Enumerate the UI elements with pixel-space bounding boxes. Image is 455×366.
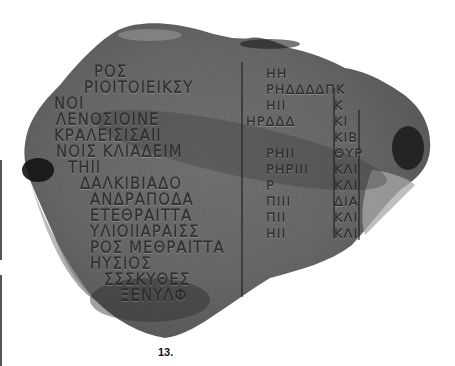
inscription-line: ΥΛΙΟΙΙΑΡΑΙΣΣ bbox=[90, 224, 225, 240]
inscription-left-column: ΡΟΣ ΡΙΟΙΤΟΙΕΙΚΣΥ ΝΟΙ ΛΕΝΟΣΙΟΙΝΕ ΚΡΑΛΕΙΣΙ… bbox=[54, 64, 225, 304]
right-line: ΔΙΑ bbox=[334, 194, 363, 210]
inscription-line: ΤΗΙΙ bbox=[68, 160, 225, 176]
ruling-line-1 bbox=[241, 62, 243, 297]
shadow-patch-right bbox=[392, 126, 424, 170]
numeral-line: ΗΡΔΔΔ bbox=[246, 114, 346, 130]
inscription-line: ΞΕΝΥΛΦ bbox=[120, 288, 225, 304]
inscription-line: ΗΥΣΙΟΣ bbox=[90, 256, 225, 272]
inscription-line: ΡΙΟΙΤΟΙΕΙΚΣΥ bbox=[84, 80, 225, 96]
inscription-line: ΝΟΙ bbox=[54, 96, 225, 112]
inscription-line: ΔΑΛΚΙΒΙΑΔΟ bbox=[80, 176, 225, 192]
right-line: Κ bbox=[334, 98, 363, 114]
right-line: ΚΛΙ bbox=[334, 162, 363, 178]
right-line: ΚΛΙ bbox=[334, 226, 363, 242]
inscription-right-column: Κ ΚΙ ΚΙΒ ΘΥΡ ΚΛΙ ΚΛΙ ΔΙΑ ΚΛΙ ΚΛΙ bbox=[334, 98, 363, 242]
right-line: ΚΛΙ bbox=[334, 178, 363, 194]
right-line: ΘΥΡ bbox=[334, 146, 363, 162]
numeral-line: ΗΗ bbox=[266, 66, 346, 82]
inscription-line: ΣΣΣΚΥΘΕΣ bbox=[104, 272, 225, 288]
inscription-line: ΚΡΑΛΕΙΣΙΣΑΙΙ bbox=[54, 128, 225, 144]
inscription-line: ΡΟΣ ΜΕΘΡΑΙΤΤΑ bbox=[90, 240, 225, 256]
figure-caption: 13. bbox=[158, 346, 173, 358]
right-line: ΚΙ bbox=[334, 114, 363, 130]
inscription-line: ΛΕΝΟΣΙΟΙΝΕ bbox=[56, 112, 225, 128]
inscription-line: ΡΟΣ bbox=[94, 64, 225, 80]
scan-edge-line-upper bbox=[0, 160, 2, 260]
scan-edge-line-lower bbox=[0, 275, 2, 366]
highlight-top bbox=[118, 29, 182, 41]
right-line: ΚΛΙ bbox=[334, 210, 363, 226]
inscription-line: ΝΟΙΣ ΚΛΙΑΔΕΙΜ bbox=[56, 144, 225, 160]
inscription-line: ΕΤΕΘΡΑΙΤΤΑ bbox=[90, 208, 225, 224]
numeral-line: ΡΗΔΔΔΔΠΚ bbox=[266, 82, 346, 98]
inscription-line: ΑΝΔΡΑΠΟΔΑ bbox=[90, 192, 225, 208]
right-line: ΚΙΒ bbox=[334, 130, 363, 146]
shadow-patch-left bbox=[22, 158, 54, 182]
shadow-top-ridge bbox=[240, 39, 300, 49]
